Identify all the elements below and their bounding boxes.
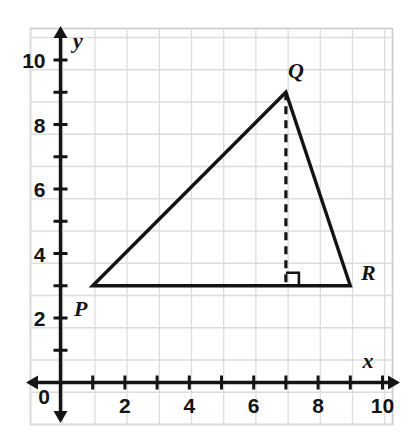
y-tick-label: 4 [34, 243, 46, 266]
vertex-label-q: Q [288, 58, 304, 83]
x-tick-label: 8 [312, 394, 324, 417]
x-tick-label: 6 [248, 394, 260, 417]
y-tick-label: 2 [34, 307, 46, 330]
x-tick-label: 2 [119, 394, 131, 417]
y-tick-label: 6 [34, 178, 46, 201]
x-axis-label: x [362, 348, 374, 373]
y-tick-label: 8 [34, 114, 46, 137]
origin-label: 0 [38, 385, 50, 408]
vertex-label-r: R [360, 260, 376, 285]
y-tick-label: 10 [22, 49, 45, 72]
x-tick-label: 4 [183, 394, 195, 417]
vertex-label-p: P [73, 296, 88, 321]
graph-svg: 246810246810 PQR x y 0 [0, 0, 417, 445]
coordinate-plane-figure: 246810246810 PQR x y 0 [0, 0, 417, 445]
x-tick-label: 10 [371, 394, 394, 417]
